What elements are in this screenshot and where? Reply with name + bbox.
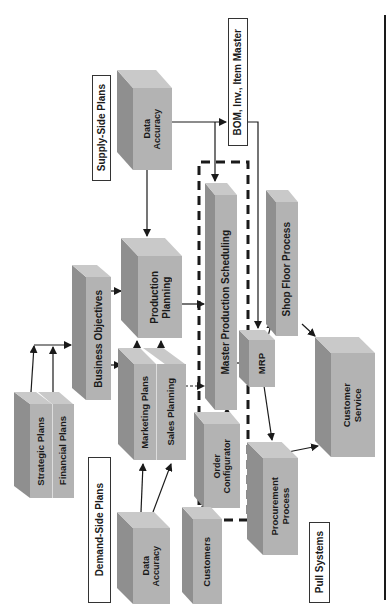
block-data-accuracy-demand: Data Accuracy — [117, 512, 170, 604]
supply-side-plans-label: Supply-Side Plans — [92, 75, 111, 181]
block-customer-service: Customer Service — [315, 337, 375, 457]
bom-inv-item-master-label: BOM, Inv., Item Master — [228, 18, 248, 146]
planning-systems-diagram: Supply-Side Plans BOM, Inv., Item Master… — [0, 0, 390, 612]
block-mrp: MRP — [239, 330, 275, 387]
block-production-planning: Production Planning — [121, 238, 182, 338]
demand-side-plans-label: Demand-Side Plans — [88, 457, 111, 603]
demand-side-plans-text: Demand-Side Plans — [94, 483, 106, 576]
pull-systems-text: Pull Systems — [314, 531, 326, 593]
block-label: Procurement Process — [270, 477, 292, 536]
block-label: Shop Floor Process — [281, 222, 293, 316]
block-financial-plans: Financial Plans — [38, 392, 73, 498]
block-data-accuracy-supply: Data Accuracy — [117, 70, 172, 170]
block-label: Customers — [202, 537, 213, 587]
block-label: Sales Planning — [166, 378, 177, 446]
block-label: Financial Plans — [58, 416, 69, 485]
block-order-configurator: Order Configurator — [194, 412, 240, 508]
block-shop-floor-process: Shop Floor Process — [266, 190, 298, 336]
pull-systems-label: Pull Systems — [309, 522, 330, 603]
block-business-objectives: Business Objectives — [72, 265, 111, 400]
supply-side-plans-text: Supply-Side Plans — [96, 84, 108, 171]
block-procurement-process: Procurement Process — [247, 442, 298, 555]
block-customers: Customers — [182, 507, 222, 604]
block-label: Production Planning — [149, 271, 172, 324]
block-label: Customer Service — [342, 383, 364, 427]
block-label: Order Configurator — [212, 439, 233, 494]
block-label: Data Accuracy — [142, 109, 163, 150]
block-master-production-scheduling: Master Production Scheduling — [205, 183, 237, 410]
block-label: Business Objectives — [93, 290, 105, 388]
block-label: Master Production Scheduling — [220, 230, 232, 374]
block-sales-planning: Sales Planning — [143, 348, 185, 460]
bom-text: BOM, Inv., Item Master — [232, 29, 244, 136]
block-label: Data Accuracy — [141, 546, 162, 587]
block-label: MRP — [257, 353, 268, 374]
